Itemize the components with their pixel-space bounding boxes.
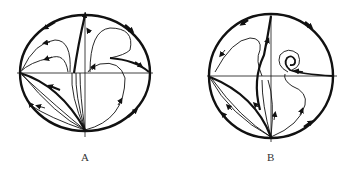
phase-portrait-figure [0,0,348,175]
phase-portrait-a [17,12,153,137]
panel-label-b: B [267,151,274,163]
phase-portrait-b [207,13,337,142]
panel-label-a: A [81,151,89,163]
